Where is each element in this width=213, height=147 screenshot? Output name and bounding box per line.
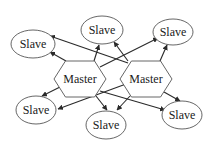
master-node: Master: [120, 61, 172, 97]
slave-nodes: SlaveSlaveSlaveSlaveSlaveSlave: [11, 16, 202, 139]
slave-label: Slave: [160, 25, 187, 39]
slave-node: Slave: [153, 19, 193, 45]
edge-m1-to-s5: [96, 96, 107, 110]
master-label: Master: [129, 72, 162, 86]
edge-m2-to-s3: [160, 45, 167, 61]
master-label: Master: [63, 72, 96, 86]
slave-node: Slave: [16, 96, 56, 124]
master-slave-diagram: MasterMaster SlaveSlaveSlaveSlaveSlaveSl…: [0, 0, 213, 147]
master-nodes: MasterMaster: [54, 61, 172, 97]
master-node: Master: [54, 61, 106, 97]
slave-node: Slave: [11, 30, 55, 58]
slave-label: Slave: [23, 103, 50, 117]
slave-node: Slave: [86, 111, 126, 139]
slave-node: Slave: [162, 101, 202, 129]
edge-m2-to-s6: [164, 92, 180, 101]
slave-label: Slave: [89, 23, 116, 37]
edge-m2-to-s2: [114, 42, 128, 61]
slave-node: Slave: [81, 16, 123, 44]
slave-label: Slave: [20, 37, 47, 51]
slave-label: Slave: [93, 118, 120, 132]
edge-m1-to-s1: [50, 52, 66, 61]
slave-label: Slave: [169, 108, 196, 122]
